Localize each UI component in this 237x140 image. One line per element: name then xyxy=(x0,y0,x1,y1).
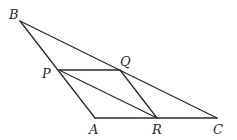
label-r: R xyxy=(151,122,162,137)
label-q: Q xyxy=(120,54,131,69)
segment-pr xyxy=(59,70,157,118)
geometry-diagram: B P Q A R C xyxy=(0,0,237,140)
label-p: P xyxy=(41,66,51,81)
segment-qr xyxy=(120,70,157,118)
label-b: B xyxy=(8,7,19,22)
label-a: A xyxy=(88,122,98,137)
label-c: C xyxy=(213,122,223,137)
